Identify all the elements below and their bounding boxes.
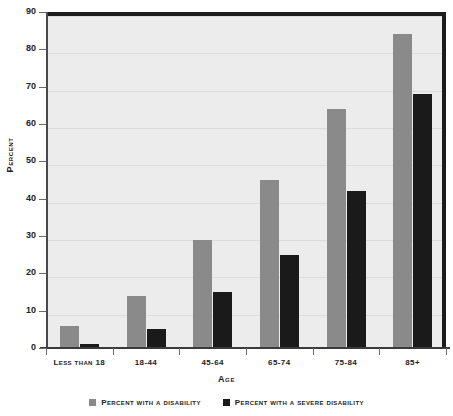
plot-area <box>46 12 446 348</box>
gridline <box>46 240 442 241</box>
y-axis-tick <box>39 199 46 200</box>
x-axis-tick-label: 75-84 <box>313 358 380 367</box>
bar <box>260 180 279 348</box>
gridline <box>46 315 442 316</box>
x-axis-tick <box>313 348 314 355</box>
bar <box>327 109 346 348</box>
y-axis-tick-label: 40 <box>8 193 36 203</box>
x-axis-tick-label: Less than 18 <box>46 358 113 367</box>
x-axis-tick-label: 18-44 <box>113 358 180 367</box>
x-axis-title: Age <box>0 374 453 384</box>
y-axis-tick-label: 90 <box>8 6 36 16</box>
x-axis-tick <box>379 348 380 355</box>
y-axis-tick-label: 70 <box>8 81 36 91</box>
bar <box>147 329 166 348</box>
x-axis-tick-label: 85+ <box>379 358 446 367</box>
gridline <box>46 165 442 166</box>
gridline <box>46 91 442 92</box>
y-axis-tick-label: 60 <box>8 118 36 128</box>
legend-entry: Percent with a severe disability <box>223 398 364 407</box>
x-axis-line <box>40 347 450 349</box>
y-axis-tick-label: 10 <box>8 305 36 315</box>
y-axis-tick <box>39 12 46 13</box>
bar <box>127 296 146 348</box>
legend-label: Percent with a disability <box>101 398 201 407</box>
bar <box>413 94 432 348</box>
y-axis-tick <box>39 161 46 162</box>
y-axis-tick <box>39 273 46 274</box>
chart-legend: Percent with a disabilityPercent with a … <box>0 398 453 407</box>
x-axis-tick <box>246 348 247 355</box>
legend-entry: Percent with a disability <box>89 398 201 407</box>
disability-by-age-bar-chart: Percent 0102030405060708090 Less than 18… <box>0 0 453 416</box>
gridline <box>46 277 442 278</box>
y-axis-tick <box>39 311 46 312</box>
y-axis-tick <box>39 49 46 50</box>
y-axis-tick-label: 50 <box>8 155 36 165</box>
x-axis-tick <box>113 348 114 355</box>
bar <box>60 326 79 348</box>
x-axis-tick <box>446 348 447 355</box>
y-axis-line <box>46 12 48 348</box>
legend-swatch <box>223 399 230 406</box>
bar <box>393 34 412 348</box>
bar <box>280 255 299 348</box>
x-axis-tick-label: 45-64 <box>179 358 246 367</box>
y-axis-tick-label: 30 <box>8 230 36 240</box>
bar <box>347 191 366 348</box>
y-axis-tick <box>39 236 46 237</box>
plot-inner <box>46 16 442 348</box>
legend-swatch <box>89 399 96 406</box>
gridline <box>46 16 442 17</box>
bar <box>213 292 232 348</box>
gridline <box>46 203 442 204</box>
y-axis-tick-label: 0 <box>8 342 36 352</box>
bar <box>193 240 212 348</box>
x-axis-tick <box>46 348 47 355</box>
legend-label: Percent with a severe disability <box>235 398 364 407</box>
y-axis-tick-label: 80 <box>8 43 36 53</box>
gridline <box>46 53 442 54</box>
gridline <box>46 128 442 129</box>
x-axis-tick <box>179 348 180 355</box>
x-axis-tick-label: 65-74 <box>246 358 313 367</box>
y-axis-tick <box>39 348 46 349</box>
y-axis-tick <box>39 124 46 125</box>
y-axis-tick-label: 20 <box>8 267 36 277</box>
y-axis-tick <box>39 87 46 88</box>
